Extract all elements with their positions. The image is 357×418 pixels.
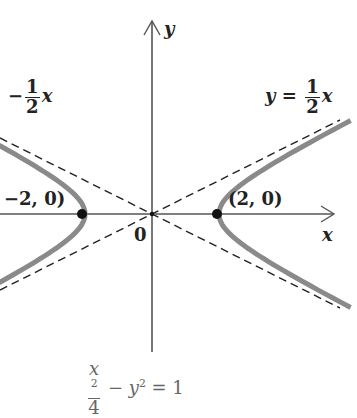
vertex-point-left xyxy=(77,209,87,219)
equation-y-var: y xyxy=(129,377,139,398)
asymptote-positive-num: 1 xyxy=(305,78,320,98)
asymptote-positive-den: 2 xyxy=(305,98,320,117)
equation-numerator: x2 xyxy=(88,360,100,399)
equation-denominator: 4 xyxy=(88,399,100,418)
vertex-label-left: −2, 0) xyxy=(4,190,65,208)
asymptote-negative-var: x xyxy=(42,85,53,106)
asymptote-negative-label: − 1 2 x xyxy=(8,78,52,117)
asymptote-negative-minus: − xyxy=(8,85,23,106)
asymptote-negative xyxy=(0,138,340,308)
equation-rhs: 1 xyxy=(172,377,183,398)
asymptote-positive-fraction: 1 2 xyxy=(305,78,320,117)
vertex-label-right: (2, 0) xyxy=(228,190,283,208)
origin-point xyxy=(150,212,154,216)
equation-num-exp: 2 xyxy=(91,377,98,390)
equation-fraction: x2 4 xyxy=(88,360,100,418)
asymptote-negative-fraction: 1 2 xyxy=(25,78,40,117)
asymptote-positive-equals: = xyxy=(282,85,297,106)
asymptote-positive-label: y = 1 2 x xyxy=(265,78,332,117)
equation-equals: = xyxy=(152,377,167,398)
equation-minus: − xyxy=(108,377,123,398)
asymptote-negative-num: 1 xyxy=(25,78,40,98)
vertex-point-right xyxy=(212,209,222,219)
x-axis-label: x xyxy=(322,226,333,244)
asymptote-positive-lhs: y xyxy=(265,85,275,106)
asymptote-positive-var: x xyxy=(322,85,333,106)
origin-label: 0 xyxy=(134,226,147,244)
equation-y-exp: 2 xyxy=(139,377,146,390)
asymptote-negative-den: 2 xyxy=(25,98,40,117)
hyperbola-equation: x2 4 − y2 = 1 xyxy=(86,360,184,418)
y-axis-label: y xyxy=(164,20,174,38)
